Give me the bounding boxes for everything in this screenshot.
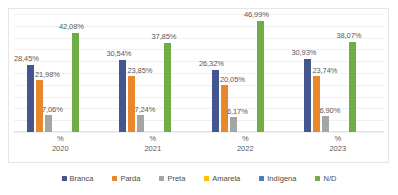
- bar-n-d: [164, 43, 171, 132]
- bar-parda: [313, 76, 320, 132]
- bar-preta: [45, 115, 52, 132]
- legend-item-parda[interactable]: Parda: [112, 174, 140, 183]
- x-tick-year: 2020: [14, 144, 107, 154]
- data-label: 46,99%: [244, 10, 269, 19]
- plot-area: 28,45%21,98%7,06%42,08%30,54%23,85%7,24%…: [14, 14, 384, 132]
- data-label: 37,85%: [151, 32, 176, 41]
- legend-swatch-icon: [259, 176, 264, 181]
- bar-group: 30,54%23,85%7,24%37,85%: [107, 14, 200, 132]
- legend-item-ind-gena[interactable]: Indígena: [259, 174, 296, 183]
- bar-n-d: [257, 21, 264, 132]
- bar-n-d: [72, 33, 79, 132]
- data-label: 30,54%: [106, 49, 131, 58]
- bar-branca: [119, 60, 126, 132]
- bar-group: 28,45%21,98%7,06%42,08%: [14, 14, 107, 132]
- data-label: 7,24%: [134, 105, 155, 114]
- legend-label: Amarela: [212, 174, 240, 183]
- data-label: 7,06%: [42, 105, 63, 114]
- legend-swatch-icon: [204, 176, 209, 181]
- bar-group: 26,32%20,05%6,17%46,99%: [199, 14, 292, 132]
- x-axis-tick: %2021: [107, 134, 200, 162]
- legend-swatch-icon: [112, 176, 117, 181]
- data-label: 30,93%: [291, 48, 316, 57]
- bar-preta: [230, 117, 237, 132]
- bar-n-d: [349, 42, 356, 132]
- legend-item-n-d[interactable]: N/D: [315, 174, 336, 183]
- chart-legend: BrancaPardaPretaAmarelaIndígenaN/D: [0, 170, 398, 186]
- legend-label: Preta: [167, 174, 185, 183]
- data-label: 38,07%: [336, 31, 361, 40]
- legend-label: Indígena: [267, 174, 296, 183]
- bar-group: 30,93%23,74%6,90%38,07%: [292, 14, 385, 132]
- bar-parda: [128, 76, 135, 132]
- legend-item-amarela[interactable]: Amarela: [204, 174, 240, 183]
- data-label: 6,17%: [227, 107, 248, 116]
- bar-branca: [212, 70, 219, 132]
- x-axis-tick: %2020: [14, 134, 107, 162]
- data-label: 42,08%: [59, 22, 84, 31]
- legend-item-preta[interactable]: Preta: [159, 174, 185, 183]
- x-axis-tick-labels: %2020%2021%2022%2023: [14, 134, 384, 162]
- data-label: 26,32%: [199, 59, 224, 68]
- legend-label: Branca: [70, 174, 94, 183]
- legend-swatch-icon: [159, 176, 164, 181]
- bar-branca: [27, 65, 34, 132]
- bar-branca: [304, 59, 311, 132]
- legend-swatch-icon: [62, 176, 67, 181]
- x-axis-tick: %2022: [199, 134, 292, 162]
- bar-preta: [322, 116, 329, 132]
- x-axis-tick: %2023: [292, 134, 385, 162]
- legend-label: N/D: [323, 174, 336, 183]
- data-label: 6,90%: [319, 106, 340, 115]
- legend-swatch-icon: [315, 176, 320, 181]
- data-label: 23,85%: [127, 66, 152, 75]
- legend-label: Parda: [120, 174, 140, 183]
- data-label: 20,05%: [220, 75, 245, 84]
- x-tick-unit: %: [107, 134, 200, 144]
- x-tick-year: 2021: [107, 144, 200, 154]
- x-tick-unit: %: [14, 134, 107, 144]
- bar-chart: 28,45%21,98%7,06%42,08%30,54%23,85%7,24%…: [0, 0, 398, 195]
- legend-item-branca[interactable]: Branca: [62, 174, 94, 183]
- data-label: 28,45%: [14, 54, 39, 63]
- bar-preta: [137, 115, 144, 132]
- x-tick-year: 2022: [199, 144, 292, 154]
- data-label: 23,74%: [312, 66, 337, 75]
- bar-groups: 28,45%21,98%7,06%42,08%30,54%23,85%7,24%…: [14, 14, 384, 132]
- x-tick-unit: %: [199, 134, 292, 144]
- gridline: [14, 132, 384, 133]
- x-tick-year: 2023: [292, 144, 385, 154]
- x-tick-unit: %: [292, 134, 385, 144]
- data-label: 21,98%: [35, 70, 60, 79]
